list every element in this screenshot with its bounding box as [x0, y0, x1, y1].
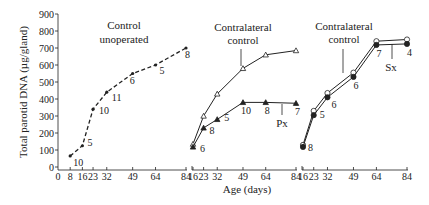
- dot-marker: [154, 63, 157, 66]
- y-tick-label: 500: [39, 77, 54, 88]
- sample-size-label: 10: [241, 105, 251, 116]
- panel-label: Contralateral: [315, 20, 372, 32]
- x-tick-label: 23: [88, 171, 98, 182]
- y-tick-label: 700: [39, 43, 54, 54]
- sample-size-label: 8: [185, 49, 190, 60]
- sample-size-label: 10: [99, 105, 109, 116]
- x-tick-label: 0: [56, 171, 61, 182]
- series-sx: 856674: [300, 41, 412, 153]
- y-axis-title: Total parotid DNA (µg/gland): [17, 26, 30, 158]
- sample-size-label: 8: [210, 125, 215, 136]
- series-line: [303, 44, 407, 147]
- dot-marker: [69, 154, 72, 157]
- y-tick-label: 900: [39, 9, 54, 20]
- x-tick-label: 23: [309, 171, 319, 182]
- x-tick-label: 16: [77, 171, 87, 182]
- x-tick-label: 32: [322, 171, 332, 182]
- sample-size-label: 5: [160, 65, 165, 76]
- sample-size-label: 5: [87, 137, 92, 148]
- y-axis: 0100200300400500600700800900: [39, 9, 58, 173]
- x-axis-title: Age (days): [223, 183, 272, 196]
- sample-size-label: 6: [331, 99, 336, 110]
- chart-canvas: 0100200300400500600700800900 Total parot…: [0, 0, 429, 205]
- filled-circle-marker: [325, 95, 330, 100]
- y-tick-label: 200: [39, 128, 54, 139]
- panel-label: Contralateral: [214, 21, 271, 33]
- sample-size-label: 4: [407, 47, 412, 58]
- x-tick-label: 64: [371, 171, 381, 182]
- y-tick-label: 300: [39, 111, 54, 122]
- sample-size-label: 10: [73, 157, 83, 168]
- y-tick-label: 400: [39, 94, 54, 105]
- x-tick-label: 32: [102, 171, 112, 182]
- filled-circle-marker: [311, 113, 316, 118]
- panel-label: control: [328, 33, 359, 45]
- open-triangle-marker: [240, 66, 245, 71]
- open-triangle-marker: [201, 113, 206, 118]
- panel-control-unoperated: 08162332496484Controlunoperated105101165…: [56, 19, 192, 182]
- sample-size-label: 8: [308, 142, 313, 153]
- x-tick-label: 23: [199, 171, 209, 182]
- series-control-unoperated: 1051011658: [69, 46, 190, 168]
- annotation-sx: Sx: [385, 61, 397, 73]
- filled-circle-marker: [351, 74, 356, 79]
- sample-size-label: 7: [295, 106, 300, 117]
- chart-panels: 08162332496484Controlunoperated105101165…: [56, 19, 413, 182]
- filled-circle-marker: [300, 144, 305, 149]
- panel-sialectomy: 162332496484ContralateralcontrolSx856674: [298, 20, 412, 182]
- sample-size-label: 6: [130, 75, 135, 86]
- sample-size-label: 5: [320, 109, 325, 120]
- y-tick-label: 600: [39, 60, 54, 71]
- sample-size-label: 11: [112, 92, 122, 103]
- panel-label: control: [227, 34, 258, 46]
- y-tick-label: 0: [49, 162, 54, 173]
- series-line: [193, 51, 296, 145]
- x-tick-label: 49: [128, 171, 138, 182]
- x-tick-label: 49: [348, 171, 358, 182]
- dot-marker: [105, 91, 108, 94]
- x-tick-label: 84: [402, 171, 412, 182]
- filled-triangle-marker: [215, 117, 220, 122]
- sample-size-label: 8: [265, 105, 270, 116]
- y-tick-label: 100: [39, 145, 54, 156]
- x-tick-label: 49: [238, 171, 248, 182]
- series-line: [303, 40, 407, 145]
- x-tick-label: 16: [298, 171, 308, 182]
- filled-triangle-marker: [201, 125, 206, 130]
- sample-size-label: 7: [376, 48, 381, 59]
- panel-label: Control: [107, 19, 141, 31]
- panel-parotidectomy: 162332496484ContralateralcontrolPx685108…: [188, 21, 301, 182]
- open-triangle-marker: [293, 48, 298, 53]
- y-tick-label: 800: [39, 26, 54, 37]
- parotid-dna-chart: 0100200300400500600700800900 Total parot…: [0, 0, 429, 205]
- sample-size-label: 6: [200, 143, 205, 154]
- x-tick-label: 64: [261, 171, 271, 182]
- annotation-px: Px: [276, 117, 288, 129]
- panel-label: unoperated: [100, 33, 149, 45]
- filled-circle-marker: [404, 41, 409, 46]
- series-contralateral-control: [190, 48, 298, 146]
- filled-circle-marker: [374, 42, 379, 47]
- sample-size-label: 6: [353, 80, 358, 91]
- dot-marker: [81, 144, 84, 147]
- x-tick-label: 16: [188, 171, 198, 182]
- dot-marker: [91, 108, 94, 111]
- x-tick-label: 8: [68, 171, 73, 182]
- x-tick-label: 32: [212, 171, 222, 182]
- series-contralateral-control: [300, 37, 409, 148]
- x-tick-label: 64: [151, 171, 161, 182]
- sample-size-label: 5: [224, 112, 229, 123]
